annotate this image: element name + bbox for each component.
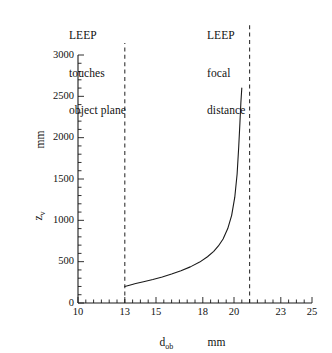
x-tick-label: 25 — [304, 306, 320, 317]
x-axis-variable-label: dob — [148, 324, 173, 353]
annotation-line: focal — [207, 67, 245, 80]
x-tick-label: 10 — [70, 306, 86, 317]
annotation-line: LEEP — [207, 29, 245, 42]
x-tick-label: 20 — [226, 306, 242, 317]
y-tick-label: 2000 — [30, 131, 74, 142]
x-tick-label: 23 — [273, 306, 289, 317]
x-axis-variable-subscript: ob — [165, 342, 173, 351]
annotation-leep-focal-distance: LEEP focal distance — [207, 4, 245, 142]
annotation-line: distance — [207, 104, 245, 117]
annotation-line: LEEP — [69, 29, 126, 42]
x-tick-label: 18 — [195, 306, 211, 317]
y-tick-label: 0 — [30, 297, 74, 308]
y-tick-label: 500 — [30, 255, 74, 266]
x-axis-units-label: mm — [196, 324, 225, 353]
annotation-leep-touches-object-plane: LEEP touches object plane — [69, 4, 126, 142]
annotation-line: touches — [69, 67, 126, 80]
y-tick-label: 1000 — [30, 214, 74, 225]
x-tick-label: 13 — [117, 306, 133, 317]
x-tick-label: 15 — [148, 306, 164, 317]
y-tick-label: 1500 — [30, 173, 74, 184]
annotation-line: object plane — [69, 104, 126, 117]
y-tick-label: 2500 — [30, 90, 74, 101]
y-tick-label: 3000 — [30, 49, 74, 60]
x-axis-units-text: mm — [208, 336, 226, 348]
